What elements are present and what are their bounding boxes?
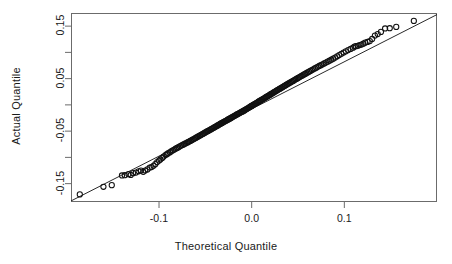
y-tick-label: -0.05: [54, 108, 66, 152]
plot-frame: [71, 13, 437, 202]
x-tick-label: 0.0: [222, 212, 282, 224]
x-tick-label: -0.1: [129, 212, 189, 224]
y-tick-label: 0.15: [54, 3, 66, 47]
x-axis-ticks: [159, 202, 344, 208]
y-axis-title: Actual Quantile: [10, 11, 22, 200]
qq-plot-figure: -0.10.00.1 0.150.05-0.05-0.15 Theoretica…: [0, 0, 452, 264]
y-tick-label: 0.05: [54, 56, 66, 100]
y-tick-label: -0.15: [54, 161, 66, 205]
x-axis-title: Theoretical Quantile: [0, 240, 452, 252]
x-tick-label: 0.1: [314, 212, 374, 224]
